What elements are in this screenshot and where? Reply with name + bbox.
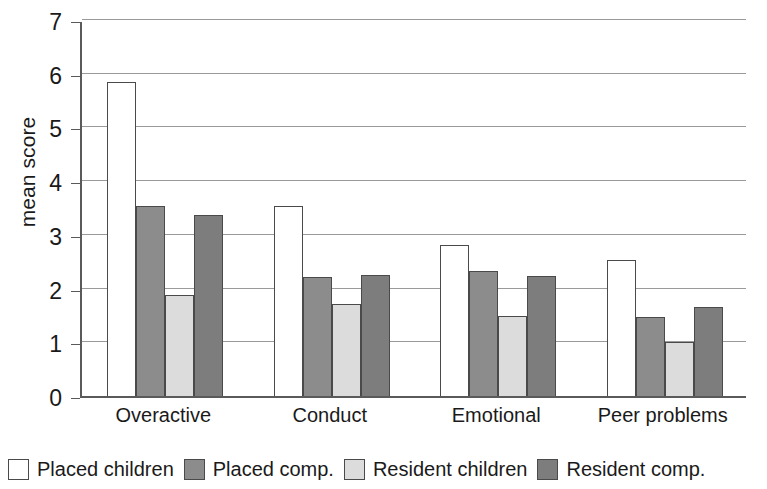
x-axis-category-label: Conduct (293, 404, 368, 427)
legend-label: Resident comp. (566, 459, 705, 479)
legend-item: Placed children (8, 459, 174, 480)
bar (665, 342, 694, 396)
legend-swatch (8, 459, 29, 480)
bar (469, 271, 498, 396)
bar (274, 206, 303, 396)
y-axis-tick-label: 6 (22, 62, 62, 89)
bars-layer (82, 22, 746, 396)
bar (607, 260, 636, 396)
y-axis-tick-labels: 01234567 (22, 22, 62, 398)
x-axis-category-label: Peer problems (598, 404, 728, 427)
bar (332, 304, 361, 396)
y-axis-tick-label: 5 (22, 116, 62, 143)
bar-group (274, 22, 390, 396)
y-axis-tick-mark (71, 344, 80, 345)
bar (498, 316, 527, 396)
bar (527, 276, 556, 396)
y-axis-tick-label: 3 (22, 223, 62, 250)
y-axis-tick-label: 4 (22, 170, 62, 197)
legend-swatch (537, 459, 558, 480)
x-axis-category-label: Overactive (115, 404, 211, 427)
legend-label: Resident children (373, 459, 528, 479)
x-axis-category-labels: OveractiveConductEmotionalPeer problems (80, 404, 746, 436)
y-axis-tick-mark (71, 129, 80, 130)
legend-item: Resident children (344, 459, 528, 480)
plot-area (80, 22, 746, 398)
y-axis-tick-mark (71, 398, 80, 399)
legend-item: Resident comp. (537, 459, 705, 480)
y-axis-tick-mark (71, 76, 80, 77)
x-axis-category-label: Emotional (452, 404, 541, 427)
bar (107, 82, 136, 396)
legend-swatch (344, 459, 365, 480)
bar (303, 277, 332, 396)
bar-group (440, 22, 556, 396)
bar-group (107, 22, 223, 396)
bar (440, 245, 469, 396)
bar (165, 295, 194, 396)
chart-legend: Placed childrenPlaced comp.Resident chil… (8, 454, 763, 484)
y-axis-tick-label: 1 (22, 331, 62, 358)
y-axis-tick-mark (71, 291, 80, 292)
bar (194, 215, 223, 396)
gridline (82, 19, 746, 20)
bar-chart: mean score 01234567 OveractiveConductEmo… (0, 0, 767, 489)
y-axis-tick-label: 0 (22, 385, 62, 412)
bar (136, 206, 165, 396)
y-axis-tick-mark (71, 22, 80, 23)
legend-label: Placed comp. (213, 459, 334, 479)
bar (361, 275, 390, 396)
y-axis-tick-mark (71, 237, 80, 238)
bar (694, 307, 723, 396)
bar-group (607, 22, 723, 396)
bar (636, 317, 665, 396)
y-axis-tick-mark (71, 183, 80, 184)
y-axis-tick-label: 7 (22, 9, 62, 36)
y-axis-tick-label: 2 (22, 277, 62, 304)
legend-label: Placed children (37, 459, 174, 479)
legend-swatch (184, 459, 205, 480)
legend-item: Placed comp. (184, 459, 334, 480)
